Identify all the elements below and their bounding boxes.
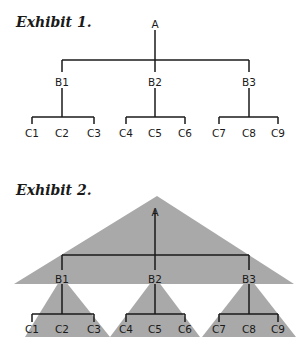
node-c7: C7	[212, 323, 226, 335]
node-c2: C2	[55, 323, 69, 335]
node-b3: B3	[242, 76, 256, 88]
node-c9: C9	[271, 323, 285, 335]
node-c3: C3	[87, 127, 101, 139]
node-c7: C7	[212, 127, 226, 139]
node-c8: C8	[242, 323, 256, 335]
node-c8: C8	[242, 127, 256, 139]
node-c2: C2	[55, 127, 69, 139]
node-c6: C6	[178, 323, 192, 335]
node-b1: B1	[55, 273, 69, 285]
node-b1: B1	[55, 76, 69, 88]
node-a: A	[151, 18, 159, 30]
node-c4: C4	[119, 127, 133, 139]
node-c1: C1	[25, 323, 39, 335]
node-c3: C3	[87, 323, 101, 335]
node-c9: C9	[271, 127, 285, 139]
node-b2: B2	[148, 273, 162, 285]
node-c6: C6	[178, 127, 192, 139]
node-a: A	[151, 206, 159, 218]
node-c4: C4	[119, 323, 133, 335]
node-b2: B2	[148, 76, 162, 88]
node-c1: C1	[25, 127, 39, 139]
node-c5: C5	[148, 323, 162, 335]
node-b3: B3	[242, 273, 256, 285]
node-c5: C5	[148, 127, 162, 139]
hierarchy-diagrams: A B1 B2 B3 C1 C2 C3 C4 C5 C6 C7 C8 C9 A …	[0, 0, 306, 352]
